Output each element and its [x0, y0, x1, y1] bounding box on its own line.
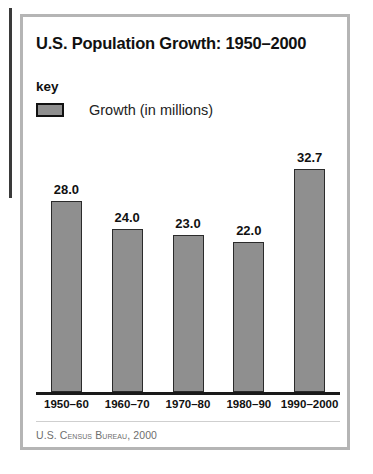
- chart-container: U.S. Population Growth: 1950–2000 key Gr…: [23, 17, 347, 447]
- x-axis-tick-labels: 1950–601960–701970–801980–901990–2000: [36, 398, 340, 418]
- x-axis-tick-label: 1950–60: [32, 398, 100, 410]
- bar: [233, 242, 264, 392]
- x-axis-line: [36, 392, 340, 395]
- legend-item-label: Growth (in millions): [89, 102, 213, 118]
- bar-value-label: 28.0: [44, 182, 89, 197]
- x-axis-tick-label: 1970–80: [154, 398, 222, 410]
- bar-group: 28.0: [44, 147, 89, 392]
- bar-group: 32.7: [287, 147, 332, 392]
- bar-value-label: 22.0: [226, 223, 271, 238]
- legend-swatch-icon: [36, 103, 64, 117]
- source-note: U.S. Census Bureau, 2000: [36, 429, 157, 441]
- x-axis-tick-label: 1980–90: [215, 398, 283, 410]
- bar-value-label: 24.0: [105, 210, 150, 225]
- bar: [51, 201, 82, 392]
- chart-frame: U.S. Population Growth: 1950–2000 key Gr…: [20, 14, 350, 450]
- bar: [112, 229, 143, 392]
- source-divider: [36, 421, 340, 422]
- bar-group: 23.0: [166, 147, 211, 392]
- plot-area: 28.024.023.022.032.7: [36, 147, 340, 392]
- chart-legend: key Growth (in millions): [36, 79, 213, 118]
- legend-item: Growth (in millions): [36, 102, 213, 118]
- bar-group: 22.0: [226, 147, 271, 392]
- bar-value-label: 32.7: [287, 150, 332, 165]
- bar-group: 24.0: [105, 147, 150, 392]
- x-axis-tick-label: 1990–2000: [276, 398, 344, 410]
- page-edge-rule: [9, 8, 12, 198]
- bar: [294, 169, 325, 392]
- bar: [173, 235, 204, 392]
- chart-title: U.S. Population Growth: 1950–2000: [36, 34, 306, 53]
- x-axis-tick-label: 1960–70: [93, 398, 161, 410]
- bar-value-label: 23.0: [166, 216, 211, 231]
- legend-heading: key: [36, 79, 213, 94]
